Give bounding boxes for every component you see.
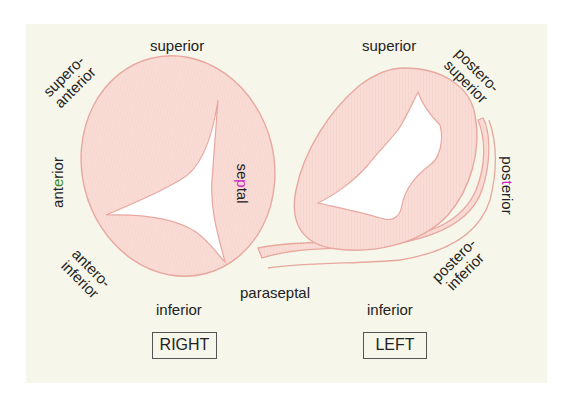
right-label-box: RIGHT: [152, 332, 217, 359]
label-part: pos: [499, 156, 516, 180]
left-label-box: LEFT: [363, 332, 427, 359]
label-highlight: e: [49, 179, 66, 187]
label-paraseptal: paraseptal: [240, 285, 310, 300]
label-left-inferior: inferior: [367, 302, 413, 317]
label-part: erior: [499, 185, 516, 215]
label-part: an: [49, 191, 66, 208]
label-right-superior: superior: [150, 38, 204, 53]
label-left-superior: superior: [362, 38, 416, 53]
label-left-posterior: posterior: [500, 156, 515, 214]
label-part: t: [49, 187, 66, 191]
label-right-septal: septal: [235, 163, 250, 203]
label-part: se: [234, 163, 251, 179]
atrioventricular-valves-diagram: [0, 0, 567, 401]
label-right-anterior: anterior: [50, 157, 65, 208]
label-part: tal: [234, 188, 251, 204]
label-highlight: p: [234, 179, 251, 187]
label-right-inferior: inferior: [156, 302, 202, 317]
label-part: rior: [49, 157, 66, 179]
